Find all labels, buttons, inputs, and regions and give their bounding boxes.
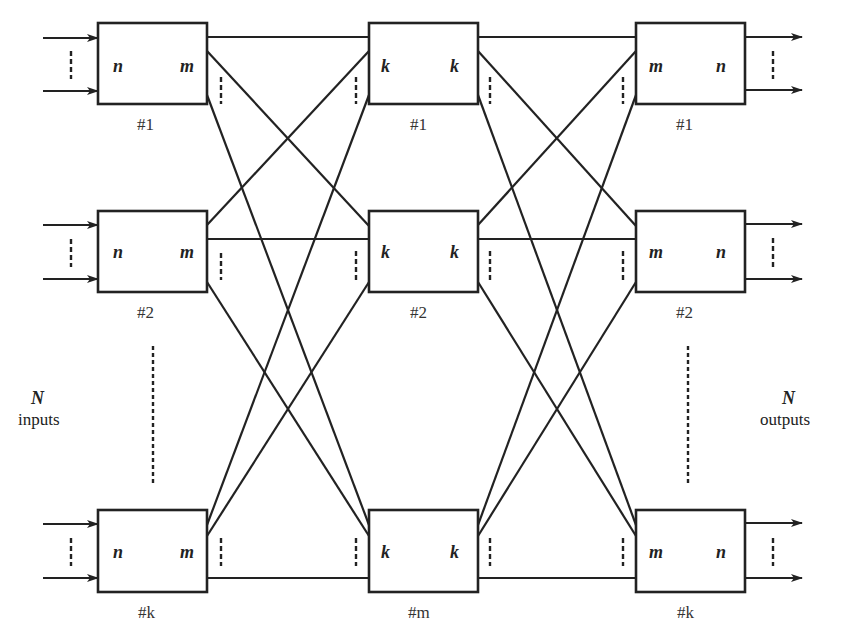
wires-stage2-to-stage3 bbox=[478, 37, 636, 578]
clos-network-diagram: n m #1 n m #2 n m #k k k #1 k k #2 k k #… bbox=[0, 0, 846, 640]
output-lines bbox=[745, 37, 802, 578]
svg-text:N: N bbox=[781, 388, 796, 408]
box-id-label: #1 bbox=[410, 115, 427, 134]
box-left-label: m bbox=[649, 56, 663, 76]
middle-switch-1: k k #1 bbox=[369, 23, 478, 134]
box-right-label: m bbox=[180, 242, 194, 262]
box-right-label: m bbox=[180, 542, 194, 562]
wires-stage1-to-stage2 bbox=[207, 37, 369, 578]
output-switch-2: m n #2 bbox=[636, 211, 745, 322]
box-right-label: m bbox=[180, 56, 194, 76]
box-id-label: #k bbox=[677, 603, 695, 622]
box-id-label: #k bbox=[138, 603, 156, 622]
input-switch-2: n m #2 bbox=[98, 211, 207, 322]
box-left-label: k bbox=[381, 56, 390, 76]
output-switch-k: m n #k bbox=[636, 510, 745, 622]
box-id-label: #m bbox=[408, 603, 430, 622]
box-id-label: #1 bbox=[137, 115, 154, 134]
box-left-label: n bbox=[113, 542, 123, 562]
svg-text:N: N bbox=[30, 388, 45, 408]
middle-switch-2: k k #2 bbox=[369, 211, 478, 322]
box-left-label: k bbox=[381, 242, 390, 262]
box-left-label: n bbox=[113, 242, 123, 262]
box-right-label: n bbox=[716, 242, 726, 262]
input-switch-1: n m #1 bbox=[98, 23, 207, 134]
box-right-label: k bbox=[450, 56, 459, 76]
box-id-label: #2 bbox=[137, 303, 154, 322]
box-left-label: m bbox=[649, 242, 663, 262]
box-id-label: #2 bbox=[676, 303, 693, 322]
box-left-label: n bbox=[113, 56, 123, 76]
box-id-label: #1 bbox=[676, 115, 693, 134]
outputs-label: N outputs bbox=[760, 388, 810, 429]
box-right-label: k bbox=[450, 242, 459, 262]
svg-text:inputs: inputs bbox=[18, 410, 60, 429]
box-right-label: n bbox=[716, 542, 726, 562]
box-left-label: k bbox=[381, 542, 390, 562]
inputs-label: N inputs bbox=[18, 388, 60, 429]
input-switch-k: n m #k bbox=[98, 510, 207, 622]
box-right-label: n bbox=[716, 56, 726, 76]
input-lines bbox=[43, 38, 98, 578]
box-right-label: k bbox=[450, 542, 459, 562]
output-switch-1: m n #1 bbox=[636, 23, 745, 134]
middle-switch-m: k k #m bbox=[369, 510, 478, 622]
box-left-label: m bbox=[649, 542, 663, 562]
box-id-label: #2 bbox=[410, 303, 427, 322]
svg-text:outputs: outputs bbox=[760, 410, 810, 429]
